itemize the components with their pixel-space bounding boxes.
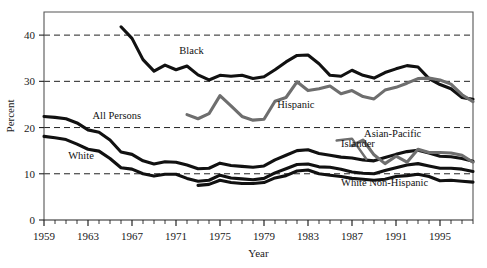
- chart-svg: BlackAll PersonsWhiteHispanicAsian-Pacif…: [0, 0, 487, 268]
- x-tick-label-1991: 1991: [385, 230, 407, 242]
- series-label-asian-pacific-islander-line2: Islander: [341, 138, 375, 149]
- axis-text-layer: 0102030401959196319671971197519791983198…: [4, 29, 452, 259]
- y-tick-label-40: 40: [24, 29, 36, 41]
- y-tick-label-10: 10: [24, 168, 36, 180]
- x-tick-label-1971: 1971: [165, 230, 187, 242]
- series-line-hispanic: [187, 78, 473, 120]
- series-label-black: Black: [179, 45, 204, 56]
- x-tick-label-1995: 1995: [429, 230, 452, 242]
- series-label-all-persons: All Persons: [92, 110, 141, 121]
- x-tick-label-1983: 1983: [297, 230, 320, 242]
- y-tick-label-30: 30: [24, 75, 36, 87]
- x-tick-label-1967: 1967: [121, 230, 144, 242]
- series-label-hispanic: Hispanic: [277, 99, 315, 110]
- y-axis-title: Percent: [4, 100, 16, 133]
- x-tick-label-1959: 1959: [33, 230, 56, 242]
- series-label-white: White: [68, 150, 94, 161]
- x-tick-label-1975: 1975: [209, 230, 232, 242]
- series-label-white-non-hispanic: White Non-Hispanic: [341, 177, 429, 188]
- x-tick-label-1979: 1979: [253, 230, 276, 242]
- y-tick-label-20: 20: [24, 122, 36, 134]
- y-tick-label-0: 0: [30, 214, 36, 226]
- gridlines: [44, 35, 473, 174]
- poverty-rate-line-chart: BlackAll PersonsWhiteHispanicAsian-Pacif…: [0, 0, 487, 268]
- data-series-layer: [44, 27, 473, 186]
- x-tick-label-1963: 1963: [77, 230, 100, 242]
- x-axis-title: Year: [248, 247, 269, 259]
- series-line-black: [121, 27, 473, 100]
- x-tick-label-1987: 1987: [341, 230, 364, 242]
